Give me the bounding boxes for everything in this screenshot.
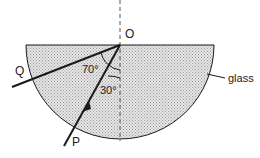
label-p: P (72, 135, 80, 149)
label-q: Q (15, 64, 24, 78)
label-glass: glass (228, 72, 254, 84)
label-origin: O (125, 27, 134, 41)
label-angle-70: 70° (82, 63, 99, 75)
label-angle-30: 30° (100, 84, 117, 96)
glass-pointer (207, 74, 225, 78)
refraction-diagram: O Q P 70° 30° glass (0, 0, 260, 158)
